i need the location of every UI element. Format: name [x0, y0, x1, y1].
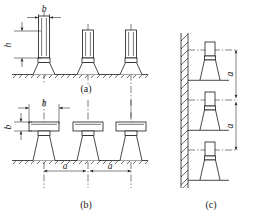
label-a-panel-b-1: a	[63, 161, 68, 171]
bracket-unit-c-3	[188, 142, 238, 180]
label-h-panel-b: h	[42, 98, 47, 108]
plate-unit-b-3	[116, 100, 146, 188]
post-unit-a-2	[77, 24, 99, 84]
dimension-h-panel-a	[14, 22, 41, 67]
caption-panel-c: (c)	[205, 199, 216, 211]
label-h-panel-a: h	[3, 42, 13, 47]
label-b-panel-b: b	[3, 124, 13, 129]
wall-c	[181, 33, 188, 188]
label-a-panel-c-2: a	[225, 123, 235, 128]
technical-drawing-figure: b h h b a a a a (a) (b) (c)	[0, 0, 253, 220]
post-unit-a-1	[33, 10, 55, 84]
label-a-panel-c-1: a	[225, 71, 235, 76]
label-b-panel-a: b	[42, 4, 47, 14]
panel-b	[12, 100, 148, 188]
ground-line-a	[12, 75, 148, 79]
panel-a	[12, 10, 148, 120]
ground-line-b	[12, 161, 148, 165]
caption-panel-a: (a)	[80, 83, 91, 95]
panel-c	[181, 33, 238, 188]
figure-canvas: b h h b a a a a (a) (b) (c)	[0, 0, 253, 220]
plate-unit-b-2	[73, 100, 103, 188]
label-a-panel-b-2: a	[108, 161, 113, 171]
caption-panel-b: (b)	[80, 199, 92, 211]
plate-unit-b-1	[29, 100, 59, 188]
